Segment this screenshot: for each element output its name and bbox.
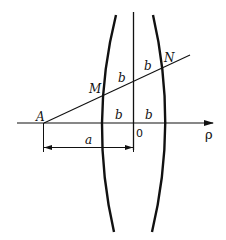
- label-point-n: N: [163, 51, 175, 65]
- label-point-m: M: [88, 82, 102, 96]
- label-point-a: A: [35, 110, 45, 124]
- label-b-lower-right: b: [145, 108, 153, 122]
- diagram-svg: A M N b b b b 0 ρ a: [0, 0, 226, 240]
- label-rho-axis: ρ: [205, 127, 213, 142]
- diagram-canvas: A M N b b b b 0 ρ a: [0, 0, 226, 240]
- label-dimension-a: a: [85, 133, 92, 147]
- label-b-upper-left: b: [118, 71, 126, 85]
- label-b-lower-left: b: [115, 108, 123, 122]
- label-b-upper-right: b: [144, 59, 152, 73]
- label-origin: 0: [136, 127, 143, 140]
